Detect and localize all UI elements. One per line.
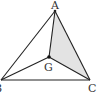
triangle-diagram: A G C B xyxy=(0,0,103,99)
point-g-dot xyxy=(47,55,51,59)
label-b: B xyxy=(0,82,2,95)
label-c: C xyxy=(88,82,96,95)
label-a: A xyxy=(50,0,60,12)
shaded-triangle-agc xyxy=(49,11,90,80)
segment-bg xyxy=(1,57,49,80)
label-g: G xyxy=(44,61,53,74)
